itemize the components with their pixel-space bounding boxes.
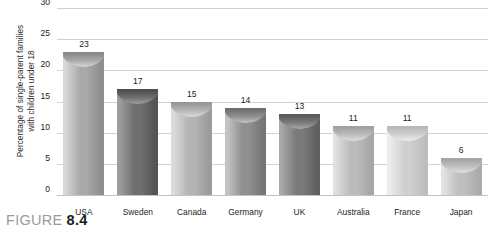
bar-cap-ellipse (225, 108, 266, 123)
bar-slot: 17Sweden (117, 8, 158, 195)
bar-cap-ellipse (117, 89, 158, 104)
bar-canada[interactable] (171, 102, 212, 196)
bar-value-label: 15 (187, 89, 197, 99)
bar-body (63, 52, 104, 195)
bar-cap-ellipse (171, 102, 212, 117)
bar-value-label: 13 (295, 101, 305, 111)
x-axis-label-sweden: Sweden (123, 207, 153, 217)
bar-uk[interactable] (279, 114, 320, 195)
bar-cylinder-cap (225, 108, 266, 123)
figure-caption-label: FIGURE (6, 212, 63, 228)
bar-chart: Percentage of single-parent families wit… (0, 0, 499, 205)
bar-cap-ellipse (279, 114, 320, 129)
y-tick-label: 5 (16, 153, 50, 163)
bar-value-label: 23 (79, 39, 89, 49)
x-axis-label-uk: UK (294, 207, 306, 217)
bar-slot: 13UK (279, 8, 320, 195)
bar-cap-ellipse (63, 52, 104, 67)
y-tick-label: 20 (16, 59, 50, 69)
y-tick-label: 25 (16, 28, 50, 38)
axis-baseline (57, 195, 488, 196)
bar-cylinder-cap (441, 158, 482, 173)
y-tick-label: 0 (16, 184, 50, 194)
plot-area: 302520151050 23USA17Sweden15Canada14Germ… (57, 8, 488, 195)
bar-cylinder-cap (63, 52, 104, 67)
bar-cylinder-cap (387, 126, 428, 141)
bar-germany[interactable] (225, 108, 266, 195)
bar-france[interactable] (387, 126, 428, 195)
bar-slot: 15Canada (171, 8, 212, 195)
bar-cylinder-cap (171, 102, 212, 117)
bar-body (117, 89, 158, 195)
bar-value-label: 11 (349, 113, 358, 123)
bar-value-label: 17 (133, 76, 143, 86)
bar-value-label: 6 (459, 145, 464, 155)
bar-cylinder-cap (279, 114, 320, 129)
bar-usa[interactable] (63, 52, 104, 195)
bar-slot: 11Australia (333, 8, 374, 195)
x-axis-label-france: France (394, 207, 420, 217)
bar-slot: 6Japan (441, 8, 482, 195)
x-axis-label-japan: Japan (450, 207, 473, 217)
bar-cap-ellipse (387, 126, 428, 141)
x-axis-label-canada: Canada (177, 207, 206, 217)
bar-slot: 23USA (63, 8, 104, 195)
bars-group: 23USA17Sweden15Canada14Germany13UK11Aust… (57, 8, 488, 195)
bar-slot: 11France (387, 8, 428, 195)
bar-cylinder-cap (333, 126, 374, 141)
bar-sweden[interactable] (117, 89, 158, 195)
bar-australia[interactable] (333, 126, 374, 195)
bar-value-label: 11 (403, 113, 412, 123)
y-tick-label: 10 (16, 122, 50, 132)
bar-value-label: 14 (241, 95, 251, 105)
x-axis-label-germany: Germany (228, 207, 262, 217)
bar-cylinder-cap (117, 89, 158, 104)
y-tick-label: 15 (16, 91, 50, 101)
bar-slot: 14Germany (225, 8, 266, 195)
figure-caption-number: 8.4 (67, 212, 88, 228)
bar-cap-ellipse (441, 158, 482, 173)
bar-cap-ellipse (333, 126, 374, 141)
x-axis-label-australia: Australia (337, 207, 370, 217)
bar-japan[interactable] (441, 158, 482, 195)
y-tick-label: 30 (16, 0, 50, 7)
figure-container: Percentage of single-parent families wit… (0, 0, 499, 238)
figure-caption: FIGURE8.4 (6, 212, 88, 228)
